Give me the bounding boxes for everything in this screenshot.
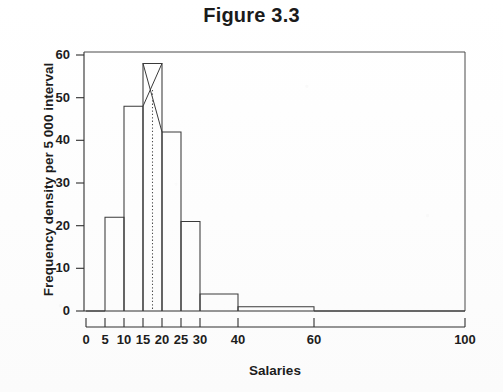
y-axis-ticks [76,55,84,311]
bar-5-10 [105,217,124,311]
x-tick-label: 40 [226,332,250,347]
axis-group [76,52,465,327]
y-tick-label: 40 [44,132,70,147]
y-tick-label: 20 [44,218,70,233]
bar-25-30 [181,222,200,312]
plot-frame [84,52,465,311]
y-tick-label: 30 [44,175,70,190]
x-axis-ticks [86,318,465,327]
x-tick-label: 60 [302,332,326,347]
figure-page: Figure 3.3 Frequency density per 5 000 i… [0,0,503,392]
bar-20-25 [162,132,181,311]
y-tick-label: 10 [44,260,70,275]
bar-30-40 [200,294,238,311]
mode-line-right [143,63,162,106]
y-tick-label: 0 [44,303,70,318]
x-tick-label: 100 [450,332,480,347]
bar-10-15 [124,106,143,311]
histogram-bars [86,63,465,311]
y-tick-label: 60 [44,47,70,62]
y-tick-label: 50 [44,90,70,105]
bar-40-60 [238,307,314,311]
x-tick-label: 30 [188,332,212,347]
